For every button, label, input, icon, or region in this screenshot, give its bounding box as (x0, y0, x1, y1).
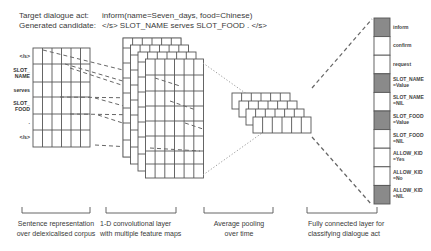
pool-map-4 (253, 117, 311, 133)
token-label: </s> (4, 134, 30, 140)
fully-connected-output (374, 18, 390, 204)
fc-label-request: request (393, 61, 411, 67)
fc-cell-request (374, 55, 390, 74)
fc-cell-allow-kid-nil (374, 185, 390, 204)
feature-map-4 (146, 59, 204, 178)
fc-cell-slot-food-value (374, 111, 390, 130)
fc-cell-confirm (374, 37, 390, 56)
fc-cell-slot-name-nil (374, 92, 390, 111)
caption-fc: Fully connected layer forclassifying dia… (308, 219, 404, 238)
fc-label-slot-name-value: SLOT_NAME=Value (393, 76, 424, 88)
token-label: . (4, 119, 30, 125)
stage-brackets (22, 207, 377, 213)
fc-label-confirm: confirm (393, 42, 411, 48)
fc-bracket (307, 207, 377, 213)
fc-label-slot-food-value: SLOT_FOOD=Value (393, 113, 424, 125)
input-bracket (22, 207, 90, 213)
caption-input: Sentence representationover delexicalise… (8, 219, 104, 238)
caption-conv: 1-D convolutional layerwith multiple fea… (100, 219, 194, 238)
fc-label-allow-kid-no: ALLOW_KID=No (393, 169, 423, 181)
fc-label-slot-food-nil: SLOT_FOOD=NIL (393, 132, 424, 144)
fc-cell-inform (374, 18, 390, 37)
token-label: SLOT_NAME (4, 67, 30, 79)
fc-cell-allow-kid-no (374, 167, 390, 186)
pool-to-fc-connections (312, 19, 372, 205)
token-label: </s> (4, 53, 30, 59)
fc-label-allow-kid-nil: ALLOW_KID=NIL (393, 187, 423, 199)
fc-label-slot-name-nil: SLOT_NAME=NIL (393, 94, 424, 106)
fc-cell-allow-kid-yes (374, 148, 390, 167)
pool-bracket (204, 207, 273, 213)
cnn-architecture-diagram (0, 0, 431, 251)
token-label: serves (4, 87, 30, 93)
caption-pool: Average poolingover time (204, 219, 274, 238)
fc-label-allow-kid-yes: ALLOW_KID=Yes (393, 150, 423, 162)
token-label: SLOT_FOOD (4, 100, 30, 112)
fc-cell-slot-food-nil (374, 130, 390, 149)
fc-cell-slot-name-value (374, 74, 390, 93)
conv-bracket (106, 207, 176, 213)
fc-label-inform: inform (393, 24, 409, 30)
average-pooling-maps (232, 93, 311, 133)
